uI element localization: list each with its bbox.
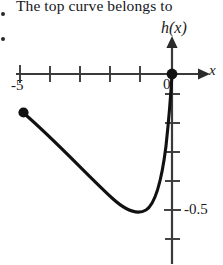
y-axis-arrow-icon	[166, 36, 177, 48]
figure-container: The top curve belongs to h(x) x -5 0 -0.…	[0, 0, 223, 265]
x-axis-arrow-icon	[198, 69, 210, 80]
origin-point-dot	[167, 69, 178, 80]
graph-plot	[0, 0, 223, 265]
curve-h-of-x	[24, 74, 173, 212]
curve-left-endpoint-dot	[18, 107, 28, 117]
